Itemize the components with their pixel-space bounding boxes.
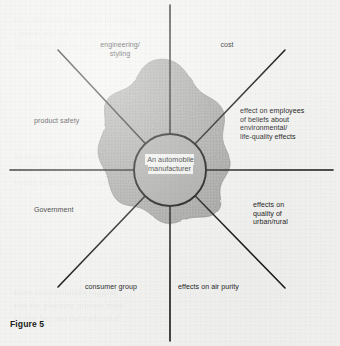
center-node-text: An automobile manufacturer [146,155,194,173]
figure-container: the corporate long-range planning contex… [0,0,340,346]
label-engineering-styling: engineering/ styling [83,41,157,58]
label-effects-on-air-purity: effects on air purity [178,283,278,292]
label-consumer-group: consumer group [85,283,165,292]
label-government: Government [34,206,104,215]
label-product-safety: product safety [34,117,110,126]
label-cost: cost [203,41,251,50]
figure-caption: Figure 5 [10,319,44,329]
label-effects-on-quality: effects on quality of urban/rural [253,201,331,227]
label-effect-on-employees: effect on employees of beliefs about env… [240,107,336,141]
center-node-label: An automobile manufacturer [136,155,204,174]
